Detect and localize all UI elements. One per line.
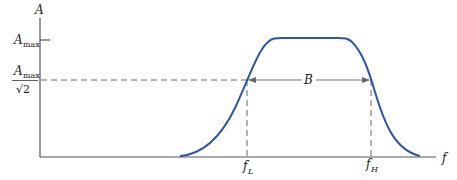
amax-label-main: A [13,33,23,47]
bandwidth-label: B [303,73,313,87]
amax-label-sub: max [23,40,40,49]
amax-root2-num-sub: max [23,71,40,80]
fh-label: f H [365,157,379,174]
amax-root2-den: √2 [16,83,30,96]
x-axis-label: f [441,151,449,165]
frequency-response-curve [180,38,420,156]
fh-label-sub: H [370,165,379,174]
fl-label-sub: L [247,167,253,176]
fl-label: f L [242,159,253,176]
bandpass-diagram: A f A max A max √2 B f L f H [0,0,457,180]
amax-root2-num-main: A [13,64,23,78]
amax-label: A max [13,33,40,49]
axes [40,18,436,157]
y-axis-label: A [34,3,44,17]
amax-over-root2-label: A max √2 [12,64,40,96]
